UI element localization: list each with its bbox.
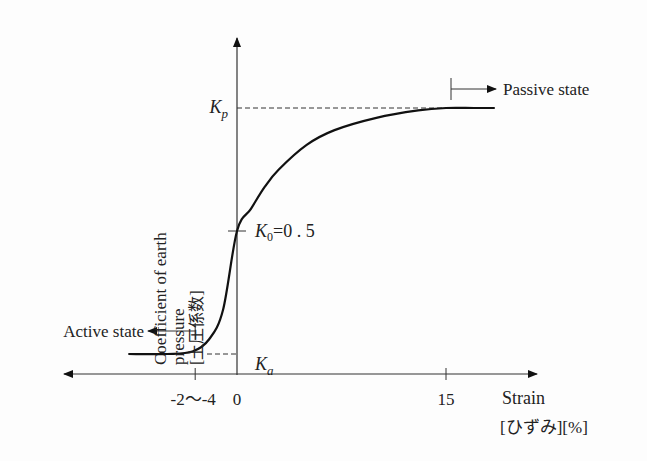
chart-svg: Active state Passive state Kp K0=0 . 5 K… — [0, 0, 647, 461]
kp-label-sub: p — [221, 106, 229, 121]
x-tick-label-0: 0 — [233, 390, 242, 409]
earth-pressure-diagram: Active state Passive state Kp K0=0 . 5 K… — [0, 0, 647, 461]
x-axis-title-sub: [ひずみ][%] — [500, 418, 588, 437]
ka-label-sub: a — [267, 363, 274, 378]
x-axis-title: Strain — [502, 388, 545, 408]
k0-label: K0=0 . 5 — [254, 221, 315, 244]
passive-state-label: Passive state — [503, 80, 589, 99]
kp-label-main: K — [208, 97, 222, 117]
kp-label: Kp — [208, 97, 228, 121]
k0-label-main: K — [254, 221, 268, 241]
y-axis-title-line3: [土圧係数] — [188, 290, 205, 365]
ka-label-main: K — [254, 354, 268, 374]
y-axis-title-line2: pressure — [169, 308, 188, 365]
x-tick-label-neg: -2〜-4 — [171, 390, 217, 409]
k0-label-value: =0 . 5 — [273, 221, 315, 241]
x-tick-label-15: 15 — [438, 390, 455, 409]
y-axis-title: Coefficient of earth pressure [土圧係数] — [151, 232, 205, 365]
active-state-label: Active state — [63, 322, 144, 341]
y-axis-title-line1: Coefficient of earth — [151, 232, 170, 365]
